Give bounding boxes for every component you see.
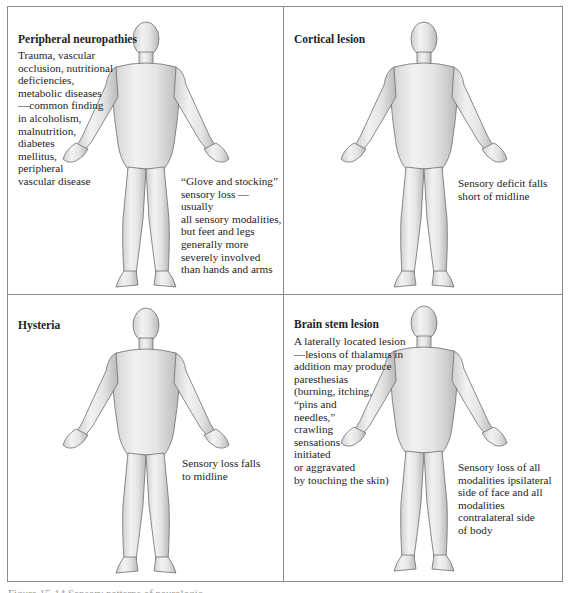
body-figure-cortical (324, 19, 524, 291)
panel-cortical-lesion: Cortical lesion Sensory deficit falls sh… (284, 7, 562, 294)
panel-peripheral-neuropathies: Peripheral neuropathies Trauma, vascular… (8, 7, 283, 294)
sensory-pattern-text: Sensory deficit falls short of midline (458, 177, 547, 202)
panel-title: Brain stem lesion (294, 318, 379, 331)
body-figure-hysteria (46, 305, 246, 577)
panel-title: Hysteria (18, 319, 60, 332)
panel-hysteria: Hysteria Sensory loss falls to midline (8, 295, 283, 581)
sensory-pattern-text: Sensory loss falls to midline (182, 457, 260, 482)
figure-caption: Figure 15-14 Sensory patterns of neurolo… (8, 586, 214, 593)
causes-text: A laterally located lesion —lesions of t… (294, 335, 406, 486)
panel-title: Cortical lesion (294, 33, 365, 46)
sensory-pattern-text: Sensory loss of all modalities ipsilater… (458, 461, 552, 537)
causes-text: Trauma, vascular occlusion, nutritional … (18, 49, 113, 188)
panel-title: Peripheral neuropathies (18, 33, 137, 46)
sensory-pattern-text: “Glove and stocking” sensory loss — usua… (181, 175, 283, 276)
panel-brain-stem-lesion: Brain stem lesion A laterally located le… (284, 295, 562, 581)
